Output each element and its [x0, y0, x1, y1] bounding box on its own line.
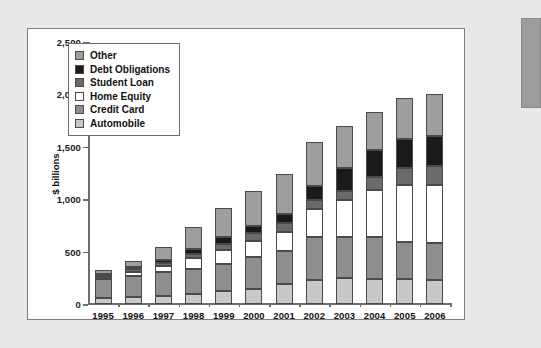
segment-student-loan[interactable]	[215, 244, 232, 250]
segment-credit-card[interactable]	[276, 251, 293, 284]
segment-debt-obligations[interactable]	[245, 226, 262, 233]
x-tick-mark	[390, 303, 392, 307]
segment-automobile[interactable]	[125, 297, 142, 304]
segment-home-equity[interactable]	[396, 185, 413, 242]
segment-automobile[interactable]	[306, 280, 323, 304]
segment-debt-obligations[interactable]	[276, 214, 293, 223]
segment-debt-obligations[interactable]	[426, 136, 443, 166]
segment-home-equity[interactable]	[336, 200, 353, 237]
segment-student-loan[interactable]	[336, 191, 353, 200]
segment-home-equity[interactable]	[95, 277, 112, 279]
bar-1998[interactable]	[185, 227, 202, 304]
segment-home-equity[interactable]	[306, 209, 323, 238]
segment-home-equity[interactable]	[276, 232, 293, 251]
legend-item-credit-card[interactable]: Credit Card	[75, 103, 170, 117]
segment-debt-obligations[interactable]	[336, 168, 353, 191]
x-tick-label: 1998	[183, 310, 205, 321]
bar-2003[interactable]	[336, 126, 353, 304]
segment-other[interactable]	[185, 227, 202, 249]
segment-home-equity[interactable]	[426, 185, 443, 244]
segment-other[interactable]	[336, 126, 353, 168]
bar-2006[interactable]	[426, 94, 443, 304]
segment-credit-card[interactable]	[306, 237, 323, 280]
legend-item-other[interactable]: Other	[75, 49, 170, 63]
legend-swatch-icon	[75, 78, 84, 87]
legend-swatch-icon	[75, 65, 84, 74]
segment-automobile[interactable]	[366, 279, 383, 304]
segment-credit-card[interactable]	[366, 237, 383, 278]
segment-credit-card[interactable]	[185, 269, 202, 294]
segment-debt-obligations[interactable]	[215, 237, 232, 243]
segment-credit-card[interactable]	[95, 279, 112, 297]
segment-other[interactable]	[396, 98, 413, 140]
segment-other[interactable]	[366, 112, 383, 150]
legend-item-debt-obligations[interactable]: Debt Obligations	[75, 63, 170, 77]
segment-credit-card[interactable]	[125, 276, 142, 297]
segment-other[interactable]	[215, 208, 232, 237]
segment-credit-card[interactable]	[155, 272, 172, 296]
segment-other[interactable]	[155, 247, 172, 260]
segment-automobile[interactable]	[336, 278, 353, 304]
segment-other[interactable]	[306, 142, 323, 186]
segment-debt-obligations[interactable]	[396, 139, 413, 168]
x-tick-mark	[299, 303, 301, 307]
x-tick-mark	[118, 303, 120, 307]
segment-debt-obligations[interactable]	[366, 150, 383, 177]
bar-1999[interactable]	[215, 208, 232, 304]
x-tick-mark	[360, 303, 362, 307]
legend-item-student-loan[interactable]: Student Loan	[75, 76, 170, 90]
x-tick-mark	[269, 303, 271, 307]
segment-student-loan[interactable]	[306, 200, 323, 209]
segment-credit-card[interactable]	[396, 242, 413, 279]
segment-automobile[interactable]	[245, 289, 262, 304]
bar-1995[interactable]	[95, 270, 112, 304]
y-tick-mark	[83, 252, 88, 254]
segment-debt-obligations[interactable]	[155, 260, 172, 263]
segment-student-loan[interactable]	[276, 223, 293, 231]
segment-other[interactable]	[426, 94, 443, 135]
x-tick-label: 1999	[213, 310, 235, 321]
segment-home-equity[interactable]	[366, 190, 383, 237]
segment-student-loan[interactable]	[125, 269, 142, 272]
segment-student-loan[interactable]	[396, 168, 413, 185]
segment-credit-card[interactable]	[245, 257, 262, 289]
legend-item-automobile[interactable]: Automobile	[75, 117, 170, 131]
bar-1996[interactable]	[125, 261, 142, 304]
segment-debt-obligations[interactable]	[306, 186, 323, 200]
segment-automobile[interactable]	[276, 284, 293, 304]
segment-home-equity[interactable]	[215, 250, 232, 264]
segment-student-loan[interactable]	[185, 254, 202, 259]
segment-automobile[interactable]	[215, 291, 232, 304]
segment-credit-card[interactable]	[215, 264, 232, 292]
segment-home-equity[interactable]	[155, 266, 172, 272]
bar-2001[interactable]	[276, 174, 293, 304]
segment-automobile[interactable]	[95, 298, 112, 304]
bar-2004[interactable]	[366, 112, 383, 304]
segment-debt-obligations[interactable]	[185, 249, 202, 254]
segment-home-equity[interactable]	[245, 241, 262, 257]
segment-other[interactable]	[125, 261, 142, 267]
y-tick-label: 1,000	[57, 194, 81, 205]
segment-automobile[interactable]	[185, 294, 202, 304]
legend-item-home-equity[interactable]: Home Equity	[75, 90, 170, 104]
segment-home-equity[interactable]	[185, 258, 202, 268]
segment-student-loan[interactable]	[245, 233, 262, 241]
bar-2000[interactable]	[245, 191, 262, 304]
bar-2002[interactable]	[306, 142, 323, 304]
segment-student-loan[interactable]	[95, 275, 112, 278]
segment-credit-card[interactable]	[336, 237, 353, 278]
segment-other[interactable]	[276, 174, 293, 214]
segment-student-loan[interactable]	[155, 263, 172, 267]
segment-other[interactable]	[95, 270, 112, 274]
segment-student-loan[interactable]	[366, 177, 383, 190]
segment-student-loan[interactable]	[426, 166, 443, 185]
segment-automobile[interactable]	[396, 279, 413, 304]
bar-2005[interactable]	[396, 98, 413, 304]
bar-1997[interactable]	[155, 247, 172, 304]
segment-automobile[interactable]	[426, 280, 443, 304]
segment-home-equity[interactable]	[125, 272, 142, 276]
x-tick-mark	[420, 303, 422, 307]
segment-automobile[interactable]	[155, 296, 172, 304]
segment-credit-card[interactable]	[426, 243, 443, 280]
segment-other[interactable]	[245, 191, 262, 227]
